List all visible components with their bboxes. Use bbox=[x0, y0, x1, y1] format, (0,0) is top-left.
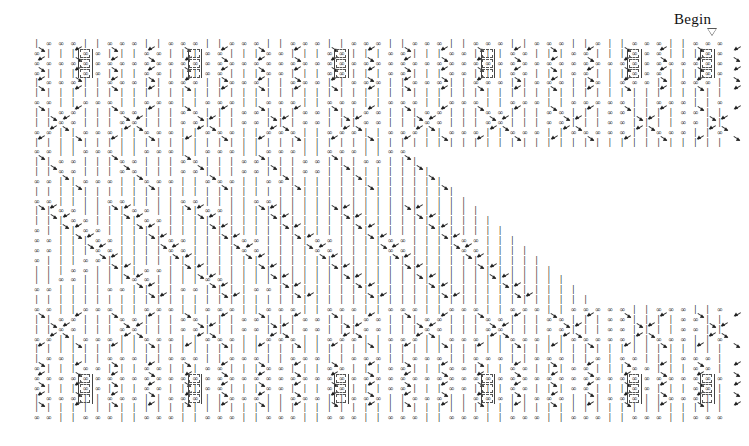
cell-tick: | bbox=[105, 326, 114, 334]
cell-infinity: ∞ bbox=[130, 158, 139, 166]
cell-infinity: ∞ bbox=[679, 375, 688, 383]
cell-tick: | bbox=[386, 158, 395, 166]
cell-tick: | bbox=[142, 237, 151, 245]
cell-infinity: ∞ bbox=[313, 375, 322, 383]
cell-tick: | bbox=[191, 148, 200, 156]
cell-infinity: ∞ bbox=[203, 178, 212, 186]
cell-infinity: ∞ bbox=[654, 414, 663, 422]
cell-tick: | bbox=[569, 79, 578, 87]
cell-tick: | bbox=[32, 188, 41, 196]
cell-infinity: ∞ bbox=[605, 326, 614, 334]
cell-tick: | bbox=[410, 286, 419, 294]
cell-infinity: ∞ bbox=[276, 365, 285, 373]
cell-tick: | bbox=[105, 267, 114, 275]
cell-infinity: ∞ bbox=[679, 119, 688, 127]
cell-tick: | bbox=[69, 198, 78, 206]
cell-tick: | bbox=[337, 178, 346, 186]
cell-tick: | bbox=[471, 326, 480, 334]
highlight-box bbox=[80, 69, 90, 78]
cell-infinity: ∞ bbox=[557, 40, 566, 48]
cell-tick: | bbox=[361, 207, 370, 215]
cell-tick: | bbox=[227, 207, 236, 215]
cell-tick: | bbox=[532, 365, 541, 373]
cell-tick: | bbox=[471, 119, 480, 127]
box-separator-rule bbox=[641, 49, 642, 79]
cell-infinity: ∞ bbox=[374, 109, 383, 117]
cell-tick: | bbox=[374, 50, 383, 58]
box-separator-rule bbox=[201, 374, 202, 404]
cell-infinity: ∞ bbox=[313, 109, 322, 117]
cell-infinity: ∞ bbox=[361, 119, 370, 127]
cell-tick: | bbox=[191, 99, 200, 107]
cell-tick: | bbox=[386, 355, 395, 363]
cell-tick: | bbox=[300, 70, 309, 78]
cell-tick: | bbox=[398, 326, 407, 334]
cell-tick: | bbox=[398, 158, 407, 166]
cell-tick: | bbox=[203, 227, 212, 235]
cell-infinity: ∞ bbox=[703, 414, 712, 422]
cell-tick: | bbox=[105, 119, 114, 127]
cell-infinity: ∞ bbox=[130, 395, 139, 403]
cell-tick: | bbox=[105, 158, 114, 166]
cell-tick: | bbox=[203, 237, 212, 245]
cell-infinity: ∞ bbox=[81, 178, 90, 186]
cell-tick: | bbox=[117, 414, 126, 422]
cell-tick: | bbox=[459, 276, 468, 284]
cell-tick: | bbox=[496, 99, 505, 107]
cell-tick: | bbox=[386, 139, 395, 147]
cell-tick: | bbox=[386, 286, 395, 294]
cell-infinity: ∞ bbox=[508, 414, 517, 422]
cell-infinity: ∞ bbox=[679, 109, 688, 117]
cell-infinity: ∞ bbox=[44, 355, 53, 363]
arrow-down-left bbox=[734, 66, 741, 71]
cell-tick: | bbox=[398, 109, 407, 117]
cell-tick: | bbox=[544, 296, 553, 304]
highlight-box bbox=[336, 59, 346, 68]
cell-infinity: ∞ bbox=[191, 79, 200, 87]
highlight-box bbox=[629, 49, 639, 58]
cell-infinity: ∞ bbox=[239, 168, 248, 176]
highlight-box bbox=[629, 384, 639, 393]
cell-infinity: ∞ bbox=[166, 129, 175, 137]
cell-infinity: ∞ bbox=[569, 375, 578, 383]
cell-tick: | bbox=[81, 326, 90, 334]
cell-tick: | bbox=[422, 129, 431, 137]
cell-tick: | bbox=[288, 207, 297, 215]
cell-tick: | bbox=[459, 296, 468, 304]
cell-tick: | bbox=[410, 188, 419, 196]
cell-tick: | bbox=[227, 217, 236, 225]
cell-tick: | bbox=[300, 276, 309, 284]
cell-tick: | bbox=[374, 168, 383, 176]
cell-tick: | bbox=[32, 316, 41, 324]
cell-infinity: ∞ bbox=[203, 99, 212, 107]
cell-infinity: ∞ bbox=[520, 50, 529, 58]
cell-tick: | bbox=[642, 129, 651, 137]
cell-infinity: ∞ bbox=[447, 129, 456, 137]
cell-tick: | bbox=[93, 89, 102, 97]
cell-tick: | bbox=[203, 395, 212, 403]
cell-tick: | bbox=[227, 70, 236, 78]
cell-tick: | bbox=[593, 316, 602, 324]
cell-tick: | bbox=[313, 198, 322, 206]
cell-tick: | bbox=[288, 247, 297, 255]
cell-infinity: ∞ bbox=[252, 168, 261, 176]
cell-tick: | bbox=[178, 276, 187, 284]
cell-tick: | bbox=[447, 257, 456, 265]
cell-infinity: ∞ bbox=[447, 414, 456, 422]
cell-tick: | bbox=[93, 40, 102, 48]
cell-infinity: ∞ bbox=[386, 306, 395, 314]
cell-tick: | bbox=[215, 168, 224, 176]
cell-tick: | bbox=[264, 139, 273, 147]
cell-infinity: ∞ bbox=[569, 70, 578, 78]
cell-tick: | bbox=[520, 326, 529, 334]
cell-infinity: ∞ bbox=[166, 414, 175, 422]
cell-tick: | bbox=[166, 188, 175, 196]
cell-infinity: ∞ bbox=[288, 414, 297, 422]
cell-tick: | bbox=[191, 178, 200, 186]
cell-infinity: ∞ bbox=[215, 148, 224, 156]
cell-infinity: ∞ bbox=[520, 385, 529, 393]
cell-tick: | bbox=[56, 188, 65, 196]
cell-infinity: ∞ bbox=[471, 99, 480, 107]
cell-infinity: ∞ bbox=[93, 257, 102, 265]
cell-tick: | bbox=[349, 188, 358, 196]
